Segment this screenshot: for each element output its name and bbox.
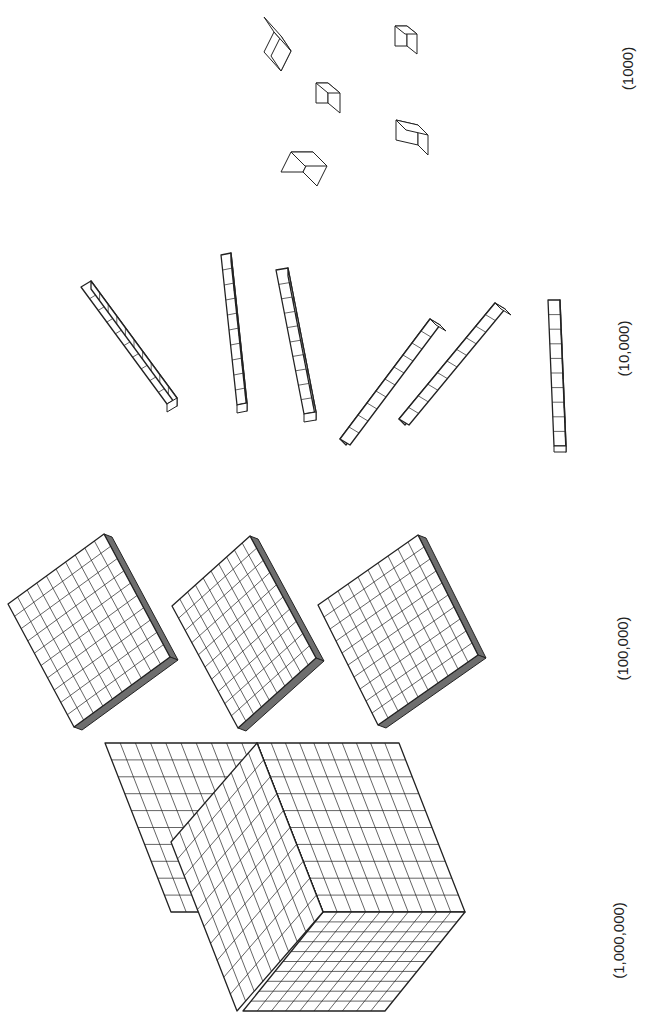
label-1000: (1000)	[619, 47, 636, 90]
cube-5	[281, 152, 327, 186]
cube-2	[395, 26, 417, 54]
cube-3	[316, 83, 340, 113]
rod-2	[221, 253, 247, 413]
cube-4	[396, 120, 428, 155]
rod-6	[548, 300, 566, 452]
rod-3	[276, 268, 316, 422]
label-10000: (10,000)	[615, 321, 632, 377]
rod-5	[399, 303, 511, 425]
flat-3	[318, 535, 486, 728]
rod-1	[81, 281, 177, 412]
cube-1	[264, 17, 291, 71]
label-1000000: (1,000,000)	[610, 902, 627, 979]
label-100000: (100,000)	[614, 616, 631, 680]
flat-2	[172, 536, 324, 731]
flat-1	[8, 534, 178, 730]
base-ten-blocks-diagram	[0, 0, 671, 1021]
